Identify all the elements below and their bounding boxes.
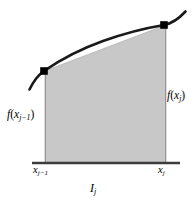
right-point-marker (160, 21, 168, 29)
trapezoidal-rule-figure: f(xj−1) f(xj) xj−1 xj Ij (0, 0, 195, 205)
x-tick-label-j-minus-1: xj−1 (33, 165, 48, 176)
label-f-x-j-minus-1: f(xj−1) (7, 109, 34, 121)
x-right-var: x (158, 164, 163, 175)
x-left-var: x (33, 164, 38, 175)
x-tick-label-j: xj (158, 165, 165, 176)
label-f-x-j: f(xj) (167, 90, 185, 102)
interval-label-i-j: Ij (90, 182, 96, 194)
f-right-close-paren: ) (181, 89, 185, 101)
trapezoid-shaded-region (45, 25, 166, 163)
x-left-subscript: j−1 (38, 169, 48, 177)
f-left-close-paren: ) (31, 108, 35, 120)
f-left-subscript: j−1 (19, 113, 30, 122)
figure-canvas (0, 0, 195, 205)
x-right-subscript: j (163, 169, 165, 177)
interval-subscript: j (94, 187, 96, 196)
left-point-marker (40, 67, 48, 75)
